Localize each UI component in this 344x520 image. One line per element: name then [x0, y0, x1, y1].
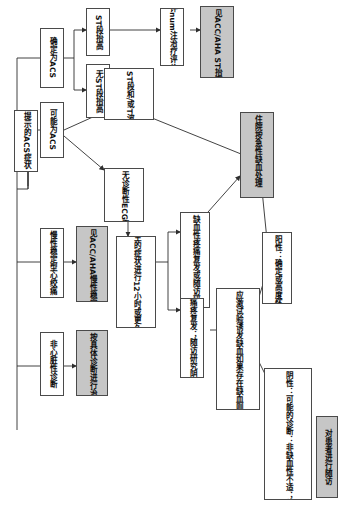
scan-node-ecg-changes-line-0: ST段和/或T波改变	[125, 71, 134, 120]
scan-node-treat-specific-diagnosis-line-0: 按具体诊断	[88, 333, 97, 373]
scan-node-symptoms-label: 提示的ACS症状	[22, 112, 31, 169]
scan-node-reperfusion-evaluation[interactable]: 评num注治疗评价	[160, 8, 184, 66]
scan-overlay: #scan .b{ position:absolute; box-sizing:…	[0, 0, 344, 520]
scan-node-negative-result-line-2: 非缺血性不适；低风险ACS	[284, 443, 293, 500]
scan-node-recurrent-ischemia[interactable]: 缺血性疼痛复发或随 访研究阳性确定为ACS	[180, 212, 210, 308]
scan-node-positive-result-line-1: 确定或高度怀疑ACS	[273, 259, 282, 304]
scan-node-st-elevation-label: ST段抬高	[94, 15, 103, 50]
scan-node-followup-label: 对患者进行随访	[323, 429, 332, 485]
scan-node-observe-12h-label: 对发生的症状进行12小时或更久观察	[132, 236, 141, 328]
scan-node-possible-acs-label: 可能为ACS	[48, 109, 57, 150]
scan-node-nondiagnostic-ecg-line-0: 无诊断性ECG表现	[120, 171, 129, 222]
scan-node-treat-specific-diagnosis-line-1: 进行治疗	[88, 373, 97, 396]
scan-node-guideline-stemi-line-0: 见ACC/AHA ST	[213, 9, 222, 68]
scan-node-possible-acs[interactable]: 可能为ACS	[40, 102, 64, 158]
scan-node-negative-result-line-0: 阴性：	[284, 371, 293, 395]
scan-node-admit-acute-ischemia-line-0: 住院	[253, 115, 262, 131]
scan-node-observe-12h[interactable]: 对发生的症状进行12小时或更久观察	[116, 236, 156, 328]
scan-node-definite-acs[interactable]: 确定为ACS	[40, 28, 64, 88]
scan-node-chronic-stable-angina[interactable]: 慢性稳定型心绞痛	[40, 228, 64, 298]
scan-node-positive-result[interactable]: 阳性： 确定或高度怀疑ACS	[262, 232, 292, 304]
scan-node-definite-acs-label: 确定为ACS	[48, 37, 57, 78]
scan-node-st-elevation[interactable]: ST段抬高	[86, 8, 110, 56]
scan-node-chronic-stable-angina-label: 慢性稳定型心绞痛	[48, 231, 57, 295]
scan-node-positive-result-line-0: 阳性：	[273, 235, 282, 259]
scan-node-guideline-stemi-line-1: 抬高型心梗指南	[213, 68, 222, 78]
scan-node-symptoms[interactable]: 提示的ACS症状	[14, 110, 38, 172]
scan-node-no-st-elevation-label: 无ST段抬高	[94, 70, 103, 113]
scan-node-stress-test-line-1: 如果存在缺血则进行LV功能评价	[234, 355, 243, 410]
scan-node-recurrent-ischemia-line-0: 缺血性疼痛复发或随	[191, 215, 200, 287]
scan-node-stress-test[interactable]: 应激试验诱发缺血 如果存在缺血则进行LV功能评价 （对出院或门诊患者进行检查）	[216, 288, 260, 410]
scan-node-guideline-chronic-angina[interactable]: 见ACC/AHA慢性 稳定型心绞痛指南	[76, 226, 108, 302]
scan-node-noncardiac-diagnosis[interactable]: 非心脏性诊断	[40, 332, 64, 396]
scan-node-followup[interactable]: 对患者进行随访	[316, 416, 338, 498]
scan-node-negative-result-line-1: 可能的诊断：	[284, 395, 293, 443]
scan-node-reperfusion-evaluation-label: 评num注治疗评价	[168, 8, 177, 66]
scan-node-guideline-stemi[interactable]: 见ACC/AHA ST 抬高型心梗指南	[200, 6, 234, 78]
scan-node-guideline-chronic-angina-line-1: 稳定型心绞痛指南	[88, 291, 97, 302]
scan-node-admit-acute-ischemia-line-1: 按急性缺血处理	[253, 131, 262, 187]
scan-node-guideline-chronic-angina-line-0: 见ACC/AHA慢性	[88, 229, 97, 291]
scan-node-treat-specific-diagnosis[interactable]: 按具体诊断 进行治疗	[76, 330, 108, 396]
scan-node-no-pain-negative[interactable]: 无痛疼复发；随访研究阴性	[180, 298, 204, 378]
scan-node-stress-test-line-0: 应激试验诱发缺血	[234, 291, 243, 355]
scan-node-nondiagnostic-ecg[interactable]: 无诊断性ECG表现 初始血清心肌标记 物正常	[104, 168, 144, 222]
scan-node-negative-result[interactable]: 阴性： 可能的诊断： 非缺血性不适；低风险ACS 非缺血性不适；低风险ACS	[264, 368, 312, 500]
scan-node-no-pain-negative-label: 无痛疼复发；随访研究阴性	[188, 298, 197, 378]
scan-node-ecg-changes[interactable]: ST段和/或T波改变 持续疼痛 心肌标记物结果阳性 血液动力学异常	[104, 68, 154, 120]
scan-node-noncardiac-diagnosis-label: 非心脏性诊断	[48, 340, 57, 388]
scan-node-admit-acute-ischemia[interactable]: 住院 按急性缺血处理	[240, 112, 274, 198]
